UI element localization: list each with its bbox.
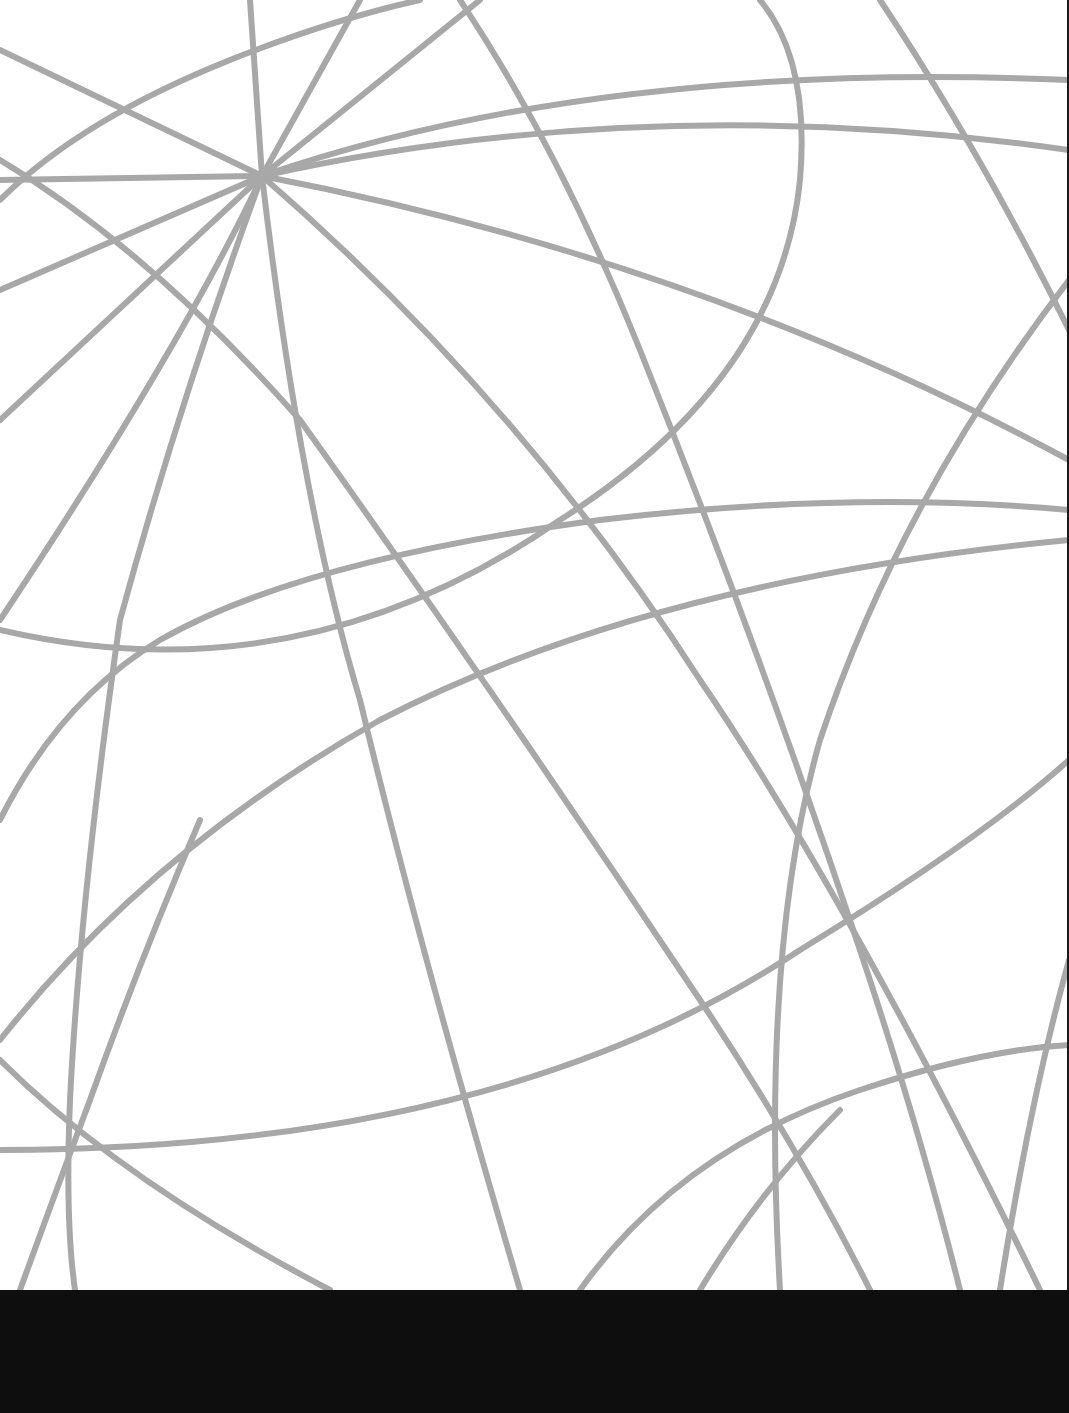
radial-line [262, 176, 1040, 1290]
diagonal-line [880, 0, 1069, 330]
radial-line [262, 125, 1069, 176]
black-bottom-band [0, 1290, 1069, 1413]
radial-line [68, 176, 262, 1290]
geometric-line-pattern [0, 0, 1069, 1413]
diagonal-line [0, 160, 870, 1290]
radial-line [250, 0, 262, 176]
radial-line [0, 176, 262, 180]
scanned-page [0, 0, 1069, 1413]
radial-line [0, 176, 262, 620]
radial-line [0, 50, 262, 176]
diagonal-line [0, 1060, 330, 1290]
radial-line [0, 176, 262, 290]
diagonal-line [1000, 960, 1069, 1290]
arc-curve [580, 1045, 1069, 1290]
arc-curve [0, 502, 1069, 820]
radial-line [0, 176, 262, 420]
arc-curve [0, 760, 1069, 1150]
diagonal-line [460, 0, 960, 1290]
radial-line [262, 0, 480, 176]
radial-line [262, 176, 520, 1290]
arc-curve [0, 540, 1069, 1040]
diagonal-line [20, 820, 200, 1290]
diagonal-line [700, 1110, 840, 1290]
